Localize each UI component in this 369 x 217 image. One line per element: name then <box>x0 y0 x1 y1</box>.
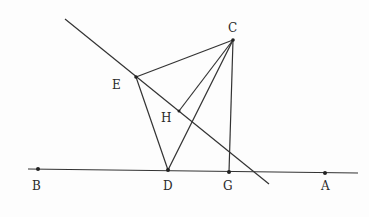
label-e: E <box>112 79 121 91</box>
label-d: D <box>163 180 173 192</box>
label-h: H <box>161 112 171 124</box>
segment-cg <box>229 40 233 172</box>
oblique-line <box>65 19 269 184</box>
point-d <box>166 168 170 172</box>
line-ba <box>28 169 358 173</box>
label-g: G <box>223 180 233 192</box>
point-h <box>178 110 181 113</box>
point-b <box>36 167 40 171</box>
diagram-lines <box>0 0 369 217</box>
geometry-diagram: C E H B D G A <box>0 0 369 217</box>
point-c <box>231 38 235 42</box>
label-a: A <box>321 180 330 192</box>
point-g <box>227 170 231 174</box>
segment-cd <box>168 40 233 170</box>
point-a <box>323 171 327 175</box>
point-e <box>134 75 138 79</box>
label-b: B <box>32 180 41 192</box>
label-c: C <box>228 22 237 34</box>
